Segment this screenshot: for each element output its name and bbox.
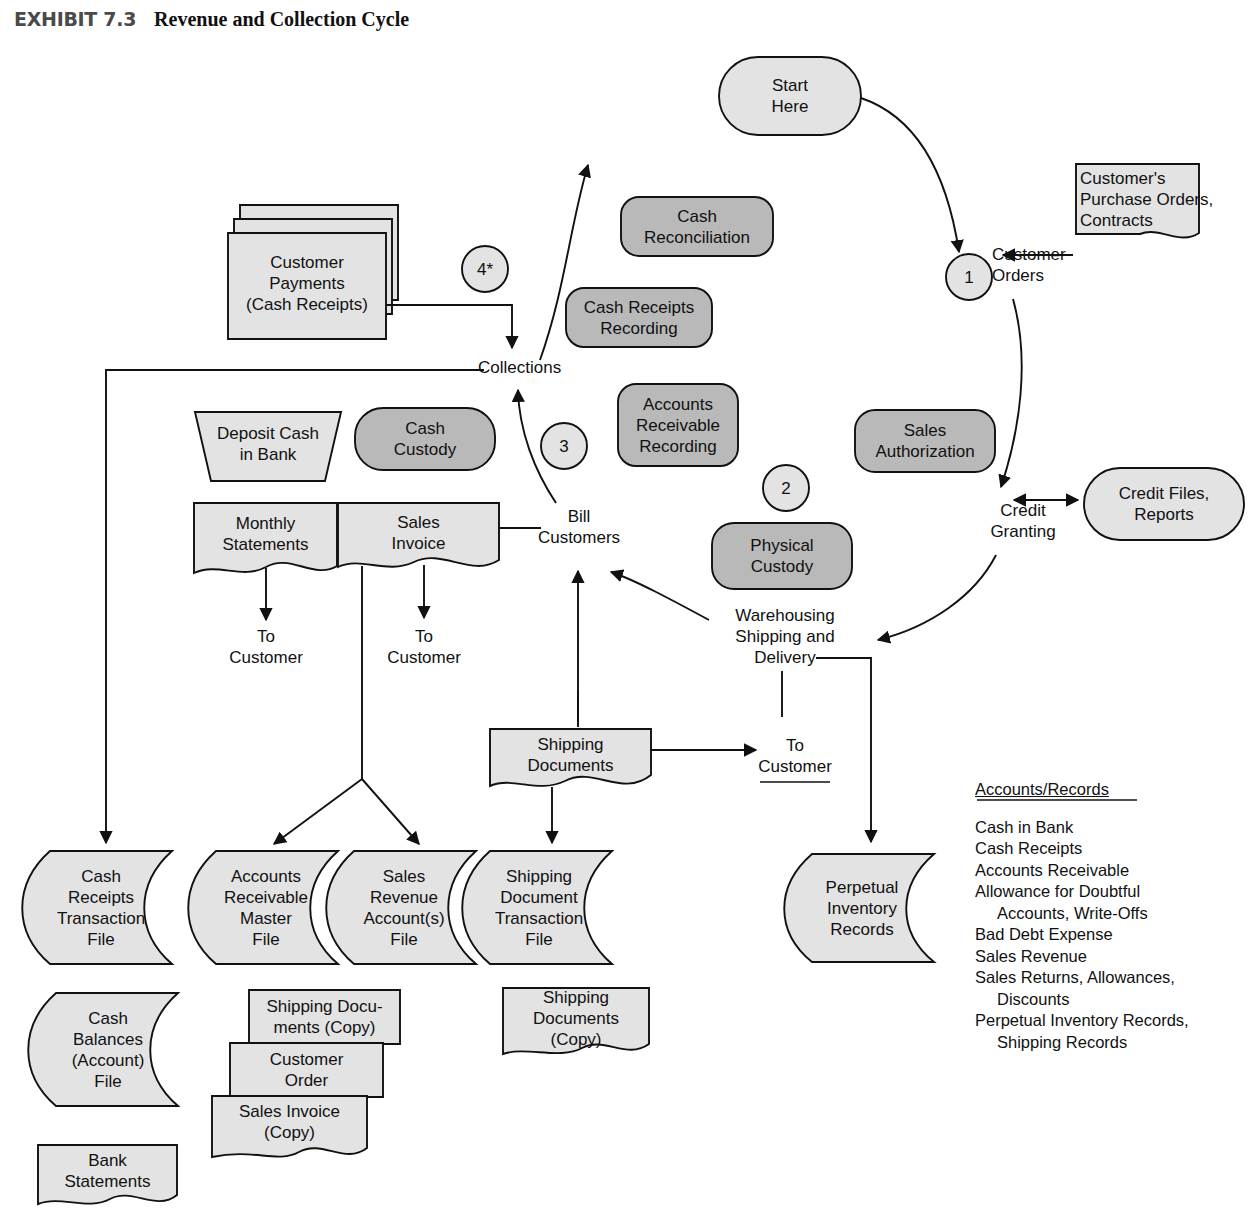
accounts-records-list: Cash in BankCash ReceiptsAccounts Receiv… — [975, 817, 1189, 1054]
warehousing-label: Warehousing Shipping and Delivery — [710, 605, 860, 668]
sales-invoice-copy-shape — [212, 1096, 367, 1157]
accounts-records-title: Accounts/Records — [975, 779, 1189, 801]
circle-3-shape — [541, 423, 587, 469]
accounts-records-item: Perpetual Inventory Records, — [975, 1010, 1189, 1032]
circle-1-shape — [946, 254, 992, 300]
connector-start-to-customer-orders — [861, 98, 959, 252]
customer-orders-label: Customer Orders — [992, 244, 1132, 286]
to-customer-statements-label: To Customer — [206, 626, 326, 668]
accounts-records-item: Accounts Receivable — [975, 860, 1189, 882]
connector-credit-granting-to-warehousing — [878, 555, 996, 640]
cash-balances-account-file-shape — [28, 993, 178, 1106]
connector-sales-invoice-to-ar-master — [274, 779, 362, 844]
deposit-cash-in-bank-shape — [195, 412, 341, 481]
shipping-documents-shape — [490, 729, 651, 786]
circle-4-shape — [462, 246, 508, 292]
shipping-documents-copy-stack-top-shape — [249, 990, 400, 1044]
sales-authorization-shape — [855, 410, 995, 472]
customers-purchase-orders-shape — [1076, 164, 1199, 238]
cash-reconciliation-shape — [621, 197, 773, 256]
accounts-records-item: Cash Receipts — [975, 838, 1189, 860]
collections-label: Collections — [478, 357, 588, 378]
bill-customers-label: Bill Customers — [521, 506, 637, 548]
perpetual-inventory-records-shape — [784, 854, 934, 962]
credit-granting-label: Credit Granting — [963, 500, 1083, 542]
to-customer-invoice-label: To Customer — [364, 626, 484, 668]
sales-revenue-accounts-file-shape — [326, 851, 476, 964]
shipping-documents-copy-shape — [503, 988, 649, 1054]
to-customer-shipping-label: To Customer — [735, 735, 855, 777]
cash-custody-shape — [355, 408, 495, 470]
accounts-records-item: Shipping Records — [975, 1032, 1189, 1054]
exhibit-page: EXHIBIT 7.3 Revenue and Collection Cycle — [0, 0, 1259, 1229]
accounts-records-item: Cash in Bank — [975, 817, 1189, 839]
circle-2-shape — [763, 465, 809, 511]
connector-sales-invoice-to-sales-revenue — [362, 779, 419, 844]
customer-order-copy-shape — [230, 1043, 383, 1097]
connector-customer-payments-to-collections — [386, 305, 512, 348]
accounts-records-item: Discounts — [975, 989, 1189, 1011]
accounts-records-legend: Accounts/Records Cash in BankCash Receip… — [975, 779, 1189, 1053]
accounts-receivable-master-file-shape — [188, 851, 338, 964]
accounts-records-item: Sales Revenue — [975, 946, 1189, 968]
cash-receipts-recording-shape — [566, 288, 712, 347]
accounts-records-item: Allowance for Doubtful — [975, 881, 1189, 903]
accounts-records-item: Sales Returns, Allowances, — [975, 967, 1189, 989]
bank-statements-shape — [38, 1145, 177, 1204]
cash-receipts-transaction-file-shape — [22, 851, 172, 964]
accounts-records-item: Accounts, Write-Offs — [975, 903, 1189, 925]
shipping-document-transaction-file-shape — [462, 851, 612, 964]
physical-custody-shape — [712, 523, 852, 589]
accounts-receivable-recording-shape — [618, 384, 738, 466]
sales-invoice-shape — [338, 503, 499, 567]
connector-customer-orders-to-credit-granting — [1001, 299, 1022, 487]
start-here-shape — [719, 57, 861, 135]
accounts-records-item: Bad Debt Expense — [975, 924, 1189, 946]
credit-files-reports-shape — [1084, 468, 1244, 540]
connector-warehousing-to-bill-customers — [611, 572, 709, 620]
customer-payments-sheet-1 — [228, 233, 386, 339]
monthly-statements-shape — [194, 503, 337, 573]
